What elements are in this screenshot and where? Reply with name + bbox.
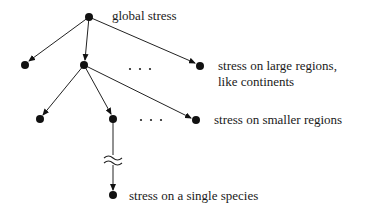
node-large-region-2	[80, 61, 88, 69]
node-single-species	[109, 191, 117, 199]
node-smaller-region-n	[192, 116, 200, 124]
edge-root-l1c	[89, 17, 195, 63]
ellipsis-level2-dot	[150, 119, 152, 121]
label-single-species: stress on a single species	[129, 188, 258, 203]
node-large-region-n	[196, 62, 204, 70]
ellipsis-level1-dot	[139, 68, 141, 70]
label-smaller-regions: stress on smaller regions	[214, 112, 342, 127]
ellipsis-dots	[129, 68, 162, 121]
ellipsis-level1-dot	[149, 68, 151, 70]
node-smaller-region-2	[109, 115, 117, 123]
edge-root-l1b	[85, 17, 89, 60]
ellipsis-level1-dot	[129, 68, 131, 70]
node-large-region-1	[21, 61, 29, 69]
ellipsis-level2-dot	[160, 119, 162, 121]
ellipsis-level2-dot	[140, 119, 142, 121]
node-global	[85, 13, 93, 21]
edge-l1b-l2c	[84, 65, 191, 118]
break-symbol-icon	[104, 156, 122, 165]
label-global-stress: global stress	[112, 8, 177, 23]
edge-l1b-l2a	[43, 65, 84, 115]
edge-l1b-l2b	[84, 65, 111, 114]
stress-hierarchy-diagram: global stress stress on large regions, l…	[0, 0, 367, 211]
edges	[29, 17, 195, 190]
label-large-regions-line1: stress on large regions,	[218, 58, 337, 73]
edge-root-l1a	[29, 17, 89, 61]
node-smaller-region-1	[36, 115, 44, 123]
label-large-regions-line2: like continents	[218, 74, 294, 89]
